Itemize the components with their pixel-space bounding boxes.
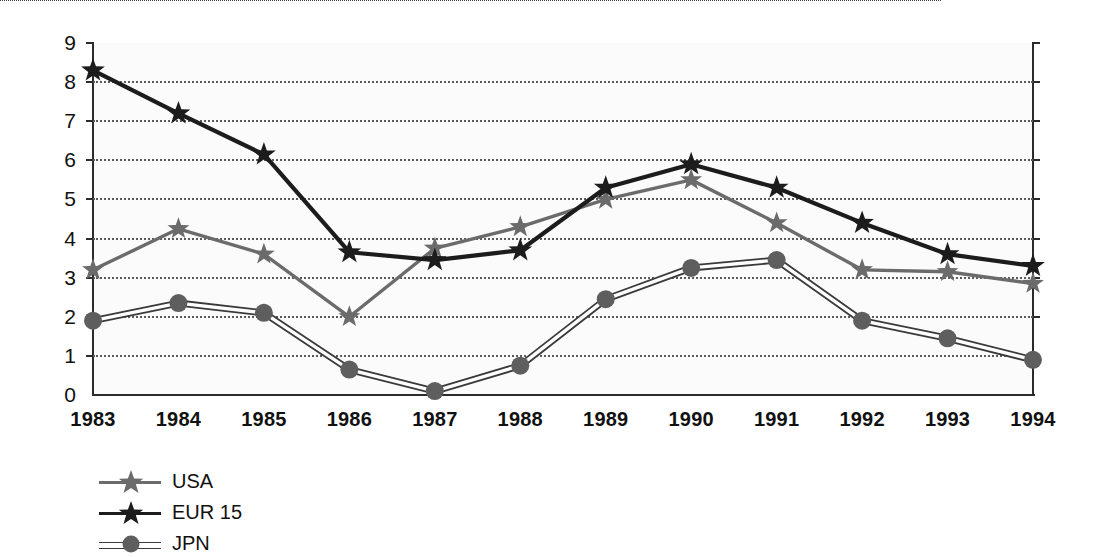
y-axis-tick (1033, 81, 1040, 83)
legend-item-jpn[interactable]: JPN (96, 528, 356, 557)
gridline (93, 316, 1033, 318)
y-axis-tick (86, 238, 93, 240)
legend-item-usa[interactable]: USA (96, 466, 356, 497)
legend-label-jpn: JPN (172, 532, 210, 555)
x-axis-tick-label: 1993 (903, 408, 993, 431)
line-chart: 0123456789 19831984198519861987198819891… (0, 0, 1105, 557)
plot-area (93, 43, 1033, 395)
y-axis-tick-label: 1 (36, 345, 76, 366)
gridline (93, 159, 1033, 161)
legend-swatch-usa (96, 469, 164, 495)
gridline (93, 120, 1033, 122)
y-axis-tick-label: 2 (36, 306, 76, 327)
y-axis-tick-label: 5 (36, 188, 76, 209)
y-axis-tick (1033, 238, 1040, 240)
y-axis-tick-label: 3 (36, 267, 76, 288)
y-axis-right-line (1032, 42, 1034, 396)
y-axis-tick-label: 7 (36, 110, 76, 131)
y-axis-tick (86, 42, 93, 44)
y-axis-tick-label: 4 (36, 228, 76, 249)
x-axis-line (92, 394, 1035, 396)
legend-swatch-eur15 (96, 500, 164, 526)
x-axis-tick-label: 1991 (732, 408, 822, 431)
y-axis-tick (1033, 316, 1040, 318)
y-axis-tick-label: 0 (36, 384, 76, 405)
gridline (93, 198, 1033, 200)
y-axis-tick (86, 120, 93, 122)
x-axis-tick-label: 1983 (48, 408, 138, 431)
star-icon (118, 500, 144, 526)
x-axis-tick-label: 1984 (133, 408, 223, 431)
gridline (93, 238, 1033, 240)
y-axis-tick-label: 9 (36, 32, 76, 53)
plot-top-border (0, 0, 941, 2)
y-axis-line (92, 42, 94, 396)
y-axis-tick (86, 159, 93, 161)
y-axis-tick (1033, 42, 1040, 44)
y-axis-tick (1033, 277, 1040, 279)
gridline (93, 355, 1033, 357)
x-axis-tick-label: 1990 (646, 408, 736, 431)
x-axis-tick-label: 1985 (219, 408, 309, 431)
x-axis-tick-label: 1989 (561, 408, 651, 431)
gridline (93, 277, 1033, 279)
y-axis-tick-label: 6 (36, 149, 76, 170)
circle-icon (118, 531, 144, 557)
y-axis-tick (1033, 355, 1040, 357)
y-axis-tick (86, 355, 93, 357)
y-axis-tick (86, 81, 93, 83)
chart-legend: USA EUR 15 JPN (96, 466, 356, 557)
legend-label-eur15: EUR 15 (172, 501, 242, 524)
star-icon (118, 469, 144, 495)
x-axis-tick-label: 1986 (304, 408, 394, 431)
y-axis-tick (1033, 159, 1040, 161)
legend-item-eur15[interactable]: EUR 15 (96, 497, 356, 528)
x-axis-tick-label: 1987 (390, 408, 480, 431)
y-axis-tick (86, 198, 93, 200)
x-axis-tick-label: 1988 (475, 408, 565, 431)
y-axis-tick-label: 8 (36, 71, 76, 92)
gridline (93, 81, 1033, 83)
legend-label-usa: USA (172, 470, 213, 493)
y-axis-tick (1033, 198, 1040, 200)
y-axis-tick (86, 277, 93, 279)
x-axis-tick-label: 1994 (988, 408, 1078, 431)
legend-swatch-jpn (96, 531, 164, 557)
y-axis-tick (1033, 120, 1040, 122)
x-axis-tick-label: 1992 (817, 408, 907, 431)
y-axis-tick (86, 316, 93, 318)
